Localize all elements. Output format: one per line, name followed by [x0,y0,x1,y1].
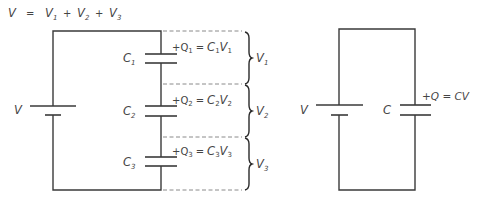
equivalent-battery-icon [316,105,363,115]
capacitor-c1-icon [145,54,177,63]
eq-plus-2: + [95,8,103,19]
series-battery-icon [30,106,76,115]
capacitors-in-series-diagram: V = V 1 + V 2 + V 3 V C 1 C 2 [0,0,478,204]
svg-text:+Q3=C3V3: +Q3=C3V3 [172,144,232,159]
capacitor-c3-label: C [123,155,131,169]
brace-v3-label: V3 [256,157,268,173]
charge-eq-3: +Q3=C3V3 [172,144,232,159]
series-wire [53,31,161,190]
capacitor-c2-icon [145,106,177,116]
charge-eq-1: +Q1=C1V1 [172,40,232,55]
brace-v3-icon [245,138,252,190]
voltage-sum-equation: V = V 1 + V 2 + V 3 [8,6,121,22]
series-circuit: V C 1 C 2 C 3 +Q1=C1V1 +Q2=C2V2 +Q3=C [14,31,269,190]
eq-term-3-sub: 3 [117,14,121,22]
capacitor-c3-icon [145,157,177,166]
equivalent-capacitor-icon [400,105,431,115]
series-battery-label: V [14,103,23,117]
equivalent-battery-label: V [300,103,309,117]
eq-term-2-sub: 2 [85,14,90,22]
svg-text:+Q2=C2V2: +Q2=C2V2 [172,93,232,108]
capacitor-c2-sub: 2 [131,112,136,120]
brace-v1-icon [245,32,252,84]
brace-v2-label: V2 [256,104,269,120]
equivalent-capacitor-label: C [383,103,391,117]
capacitor-c1-label: C [123,51,131,65]
brace-v2-icon [245,85,252,137]
equivalent-circuit: V C +Q = CV [300,29,470,190]
equivalent-wire [339,29,415,190]
capacitor-c3-sub: 3 [131,163,135,171]
eq-equals: = [26,8,34,19]
eq-lhs: V [8,6,17,20]
charge-eq-2: +Q2=C2V2 [172,93,232,108]
capacitor-c2-label: C [123,104,131,118]
eq-plus-1: + [63,8,71,19]
svg-text:+Q1=C1V1: +Q1=C1V1 [172,40,232,55]
brace-v1-label: V1 [256,51,268,67]
eq-term-1-sub: 1 [53,14,57,22]
equivalent-charge-equation: +Q = CV [422,90,470,102]
capacitor-c1-sub: 1 [131,59,135,67]
